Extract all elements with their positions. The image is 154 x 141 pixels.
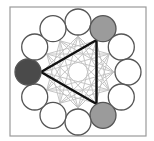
- node-circle-empty: [115, 59, 141, 85]
- node-circle-empty: [22, 84, 48, 110]
- node-circle-empty: [65, 9, 91, 35]
- node-circle-dark: [15, 59, 41, 85]
- inner-web-lines: [41, 35, 115, 109]
- node-circle-empty: [40, 16, 66, 42]
- node-ring: [15, 9, 141, 135]
- circular-network-diagram: [0, 0, 154, 141]
- diagram-canvas: [0, 0, 154, 141]
- node-circle-empty: [108, 34, 134, 60]
- node-circle-empty: [65, 109, 91, 135]
- node-circle-gray: [90, 102, 116, 128]
